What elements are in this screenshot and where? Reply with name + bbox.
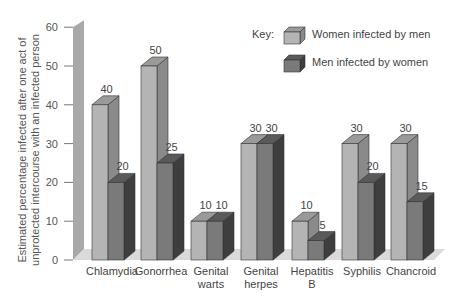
legend-swatch — [284, 60, 300, 72]
bar-front — [391, 144, 407, 260]
category-label: warts — [197, 278, 225, 290]
back-wall — [73, 20, 84, 260]
y-tick-label: 20 — [46, 176, 58, 188]
category-label: B — [308, 278, 315, 290]
value-label: 10 — [215, 199, 227, 211]
bar-side — [273, 135, 284, 260]
value-label: 50 — [149, 44, 161, 56]
category-label: herpes — [244, 278, 278, 290]
bar-side — [173, 154, 184, 260]
legend-label: Women infected by men — [312, 28, 430, 40]
y-tick-label: 0 — [52, 254, 58, 266]
category-label: Chancroid — [386, 265, 436, 277]
category-label: Gonorrhea — [135, 265, 188, 277]
bar-group: 4020Chlamydia — [86, 83, 139, 277]
category-label: Syphilis — [343, 265, 381, 277]
value-label: 20 — [366, 160, 378, 172]
y-tick-label: 40 — [46, 99, 58, 111]
value-label: 30 — [350, 122, 362, 134]
category-label: Chlamydia — [86, 265, 139, 277]
y-tick-label: 30 — [46, 138, 58, 150]
bar-front — [407, 202, 423, 260]
category-label: Genital — [194, 265, 229, 277]
value-label: 15 — [415, 180, 427, 192]
bar-group: 105HepatitisB — [291, 199, 335, 290]
value-label: 40 — [100, 83, 112, 95]
bar-group: 5025Gonorrhea — [135, 44, 188, 277]
bar-front — [257, 144, 273, 260]
y-axis-label: Estimated percentage infected after one … — [16, 34, 41, 266]
bar-front — [191, 221, 207, 260]
y-tick-label: 60 — [46, 21, 58, 33]
value-label: 5 — [319, 219, 325, 231]
value-label: 10 — [199, 199, 211, 211]
bar-group: 1010Genitalwarts — [191, 199, 234, 290]
bar-side — [124, 173, 135, 260]
bar-group: 3015Chancroid — [386, 122, 436, 277]
value-label: 30 — [249, 122, 261, 134]
legend-swatch — [284, 32, 300, 44]
y-tick-label: 10 — [46, 215, 58, 227]
value-label: 30 — [399, 122, 411, 134]
legend-label: Men infected by women — [312, 56, 428, 68]
bar-side — [374, 173, 385, 260]
y-axis-label-line: Estimated percentage infected after one … — [16, 37, 28, 263]
bar-front — [358, 182, 374, 260]
bar-front — [241, 144, 257, 260]
bar-group: 3030Genitalherpes — [241, 122, 284, 290]
bar-front — [108, 182, 124, 260]
bar-front — [308, 241, 324, 260]
bar-group: 3020Syphilis — [342, 122, 385, 277]
legend: Key:Women infected by menMen infected by… — [252, 27, 430, 72]
bar-front — [342, 144, 358, 260]
bar-front — [207, 221, 223, 260]
bar-front — [92, 105, 108, 260]
legend-title: Key: — [252, 28, 274, 40]
value-label: 20 — [116, 160, 128, 172]
bar-side — [423, 193, 434, 260]
category-label: Genital — [244, 265, 279, 277]
category-label: Hepatitis — [291, 265, 334, 277]
value-label: 10 — [300, 199, 312, 211]
bar-front — [141, 66, 157, 260]
value-label: 30 — [265, 122, 277, 134]
bar-front — [292, 221, 308, 260]
y-axis: 0102030405060 — [46, 21, 73, 266]
y-tick-label: 50 — [46, 60, 58, 72]
bar-front — [157, 163, 173, 260]
value-label: 25 — [165, 141, 177, 153]
y-axis-label-line: unprotected intercourse with an infected… — [29, 34, 41, 266]
bar-chart: 0102030405060Estimated percentage infect… — [0, 0, 458, 305]
